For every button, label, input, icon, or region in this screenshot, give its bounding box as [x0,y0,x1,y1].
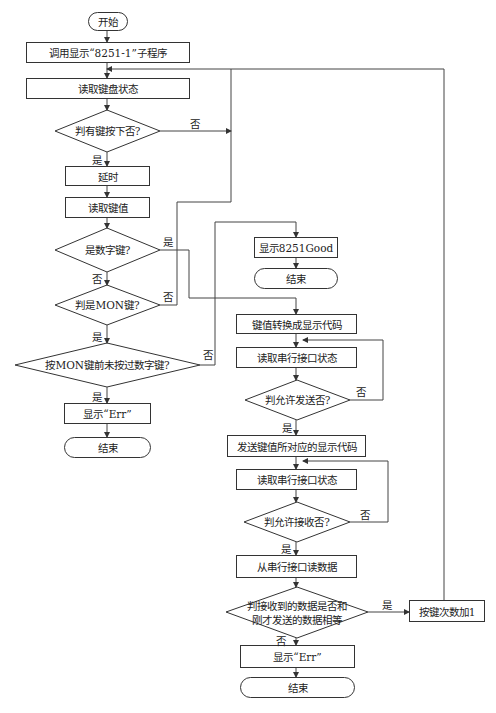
edge-label-no: 否 [356,384,366,399]
compare-line-2: 刚才发送的数据相等 [252,613,342,627]
flowchart-canvas: 开始 调用显示“8251-1”子程序 读取键盘状态 判有键按下否? 延时 读取键… [0,0,496,713]
inc-count-process: 按键次数加1 [409,600,485,622]
show-err-process-1: 显示“Err” [64,403,151,424]
end-terminal-3: 结束 [240,677,355,698]
key-pressed-decision: 判有键按下否? [55,110,160,152]
compare-line-1: 判接收到的数据是否和 [247,599,347,613]
edge-label-yes: 是 [92,389,102,404]
read-data-process: 从串行接口读数据 [236,555,357,578]
allow-recv-decision: 判允许接收否? [244,502,350,542]
edge-label-yes: 是 [382,597,392,612]
edge-label-no: 否 [203,347,213,362]
show-err-process-2: 显示“Err” [240,645,355,668]
edge-label-yes: 是 [163,234,173,249]
is-mon-decision: 判是MON键? [55,285,160,325]
show-good-process: 显示8251Good [254,237,338,258]
edge-label-yes: 是 [92,152,102,167]
edge-label-yes: 是 [281,541,291,556]
edge-label-no: 否 [92,271,102,286]
edge-label-no: 否 [360,507,370,522]
read-serial-process-1: 读取串行接口状态 [236,347,357,368]
edge-label-yes: 是 [282,420,292,435]
mon-no-digit-decision: 按MON键前未按过数字键? [15,343,200,387]
edge-label-no: 否 [190,116,200,131]
is-digit-decision: 是数字键? [55,228,160,272]
start-terminal: 开始 [88,12,128,31]
edge-label-no: 否 [276,633,286,648]
send-code-process: 发送键值所对应的显示代码 [227,435,366,457]
edge-label-yes: 是 [92,329,102,344]
allow-send-decision: 判允许发送否? [245,380,350,420]
edge-label-no: 否 [163,289,173,304]
end-terminal-2: 结束 [254,268,338,289]
read-key-process: 读取键值 [65,197,150,218]
end-terminal-1: 结束 [64,437,151,458]
call-display-process: 调用显示“8251-1”子程序 [26,42,190,63]
read-serial-process-2: 读取串行接口状态 [236,469,357,490]
delay-process: 延时 [65,166,150,186]
read-keyboard-process: 读取键盘状态 [26,78,190,99]
convert-code-process: 键值转换成显示代码 [236,314,357,334]
compare-decision: 判接收到的数据是否和 刚才发送的数据相等 [226,587,368,638]
